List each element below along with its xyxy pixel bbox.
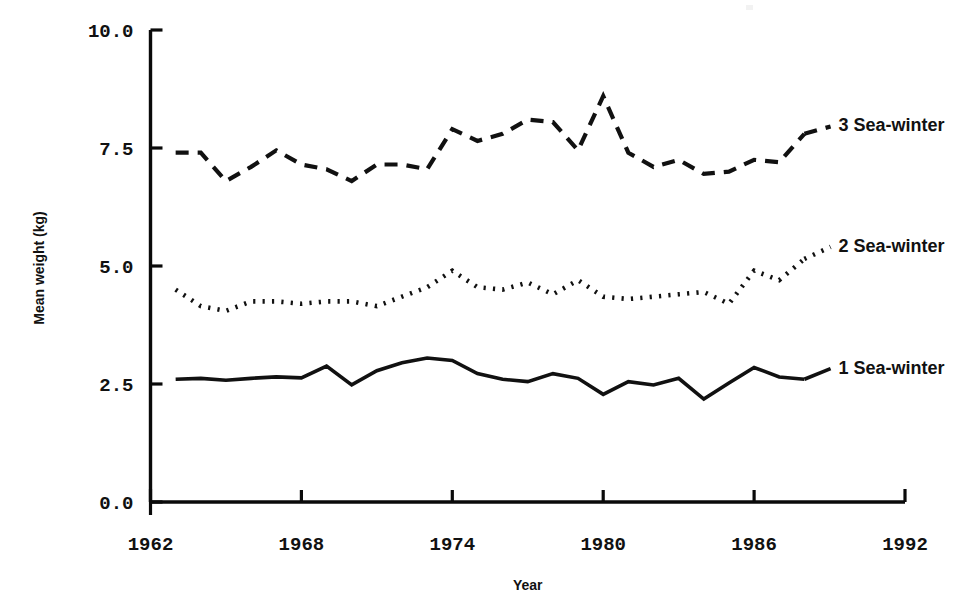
y-tick-label: 2.5: [99, 375, 133, 397]
x-tick-label: 1962: [128, 534, 174, 556]
series-label-3-sea-winter: 3 Sea-winter: [839, 115, 945, 135]
y-tick-label: 7.5: [99, 139, 133, 161]
x-tick-label: 1968: [279, 534, 325, 556]
x-tick-label: 1992: [882, 534, 928, 556]
x-axis-title: Year: [513, 577, 543, 593]
series-label-1-sea-winter: 1 Sea-winter: [839, 358, 945, 378]
mean-weight-line-chart: 0.02.55.07.510.0 19621968197419801986199…: [0, 0, 953, 605]
scan-speck: [746, 5, 753, 10]
chart-container: 0.02.55.07.510.0 19621968197419801986199…: [0, 0, 953, 605]
y-axis-title: Mean weight (kg): [31, 211, 47, 325]
x-tick-label: 1986: [731, 534, 777, 556]
y-tick-label: 0.0: [99, 493, 133, 515]
series-label-2-sea-winter: 2 Sea-winter: [839, 236, 945, 256]
chart-background: [0, 0, 953, 605]
x-tick-label: 1980: [580, 534, 626, 556]
y-tick-label: 10.0: [88, 21, 134, 43]
x-tick-label: 1974: [429, 534, 475, 556]
y-tick-label: 5.0: [99, 257, 133, 279]
